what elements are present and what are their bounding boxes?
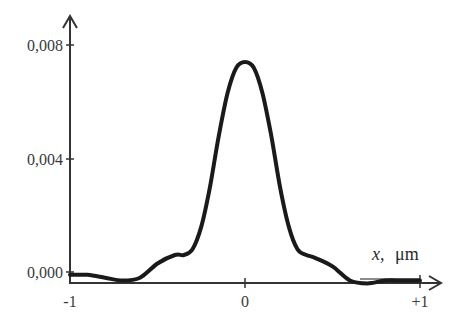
x-tick-label: +1 <box>411 293 428 310</box>
chart: 0,008 0,004 0,000 -1 0 +1 x, μm <box>0 0 472 333</box>
y-tick-label: 0,004 <box>27 151 63 168</box>
x-axis-label: x, μm <box>371 244 419 264</box>
y-tick-label: 0,008 <box>27 37 63 54</box>
y-ticks: 0,008 0,004 0,000 <box>27 37 74 281</box>
x-tick-label: 0 <box>241 293 249 310</box>
x-axis-variable: x, <box>371 244 385 264</box>
y-tick-label: 0,000 <box>27 264 63 281</box>
x-tick-label: -1 <box>63 293 76 310</box>
x-axis-unit: μm <box>395 244 419 264</box>
data-line <box>70 62 420 283</box>
